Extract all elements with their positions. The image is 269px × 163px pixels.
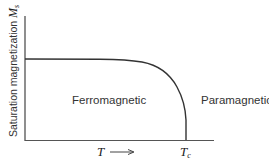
diagram-canvas: Saturation magnetization Ms Ferromagneti…: [0, 0, 269, 163]
critical-temperature-label: Tc: [180, 144, 191, 160]
ferromagnetic-label: Ferromagnetic: [72, 94, 146, 106]
x-axis-symbol: T: [97, 144, 105, 159]
y-axis-label: Saturation magnetization Ms: [6, 5, 21, 137]
paramagnetic-label: Paramagnetic: [201, 94, 269, 106]
phase-diagram: Saturation magnetization Ms Ferromagneti…: [0, 0, 269, 163]
